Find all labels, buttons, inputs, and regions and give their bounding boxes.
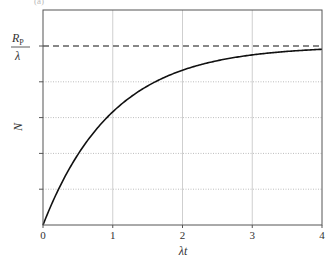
ref-numerator: RP (11, 31, 24, 47)
grid-lines (43, 10, 322, 225)
x-axis-label: λt (178, 244, 188, 258)
ref-denominator: λ (14, 49, 20, 63)
x-tick-label: 4 (319, 229, 325, 241)
x-tick-label: 0 (40, 229, 46, 241)
x-tick-label: 3 (250, 229, 256, 241)
x-axis-ticks: 01234 (40, 225, 325, 241)
y-axis-label: N (11, 122, 25, 132)
panel-label: (a) (34, 0, 44, 6)
x-tick-label: 1 (110, 229, 116, 241)
exponential-saturation-chart: (a) 01234 RP λ N λt (0, 0, 329, 264)
y-reference-label: RP λ (11, 31, 30, 63)
x-tick-label: 2 (180, 229, 186, 241)
y-axis-ticks (39, 46, 43, 189)
